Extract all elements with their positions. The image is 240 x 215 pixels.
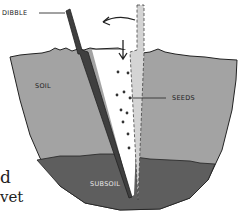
dibble-label: DIBBLE <box>2 9 27 17</box>
seeds-label: SEEDS <box>172 94 195 102</box>
subsoil-label: SUBSOIL <box>90 180 120 188</box>
dibble-diagram: DIBBLE SOIL SEEDS SUBSOIL <box>0 0 240 215</box>
soil-label: SOIL <box>35 82 51 90</box>
